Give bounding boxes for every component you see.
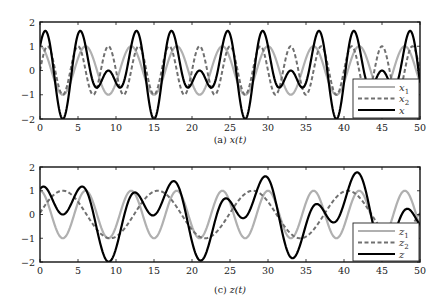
y-tick-label: 2 [29,17,35,28]
x-tick-label: 20 [186,265,198,276]
legend: x1x2x [353,79,419,118]
x-tick-label: 35 [300,265,312,276]
x-tick-label: 0 [37,122,43,133]
y-tick-label: 0 [29,65,35,76]
y-tick-label: 0 [29,209,35,220]
legend-label-x: x [399,105,405,116]
plot-x-of-t: 05101520253035404550−2−1012x1x2x(a) x(t) [21,17,426,146]
y-tick-label: 1 [29,185,35,196]
x-tick-label: 35 [300,122,312,133]
y-tick-label: 1 [29,41,35,52]
plot-z-of-t: 05101520253035404550−2−1012z1z2z(c) z(t) [21,162,426,296]
x-tick-label: 25 [224,122,236,133]
x-tick-label: 30 [262,122,274,133]
x-tick-label: 10 [110,265,122,276]
x-tick-label: 5 [75,265,81,276]
x-tick-label: 25 [224,265,236,276]
x-tick-label: 40 [338,265,350,276]
x-tick-label: 40 [338,122,350,133]
x-tick-label: 0 [37,265,43,276]
x-tick-label: 45 [376,122,388,133]
x-tick-label: 10 [110,122,122,133]
x-tick-label: 50 [414,265,426,276]
figure: 05101520253035404550−2−1012x1x2x(a) x(t)… [0,0,444,308]
x-tick-label: 15 [148,122,160,133]
legend-label-z: z [398,249,405,260]
y-tick-label: 2 [29,162,35,173]
y-tick-label: −1 [21,89,35,100]
x-tick-label: 5 [75,122,81,133]
legend: z1z2z [353,223,419,261]
caption: (a) x(t) [214,134,247,145]
y-tick-label: −2 [21,257,35,268]
x-tick-label: 50 [414,122,426,133]
caption: (c) z(t) [214,284,246,295]
x-tick-label: 30 [262,265,274,276]
y-tick-label: −2 [21,114,35,125]
x-tick-label: 45 [376,265,388,276]
y-tick-label: −1 [21,233,35,244]
x-tick-label: 15 [148,265,160,276]
x-tick-label: 20 [186,122,198,133]
